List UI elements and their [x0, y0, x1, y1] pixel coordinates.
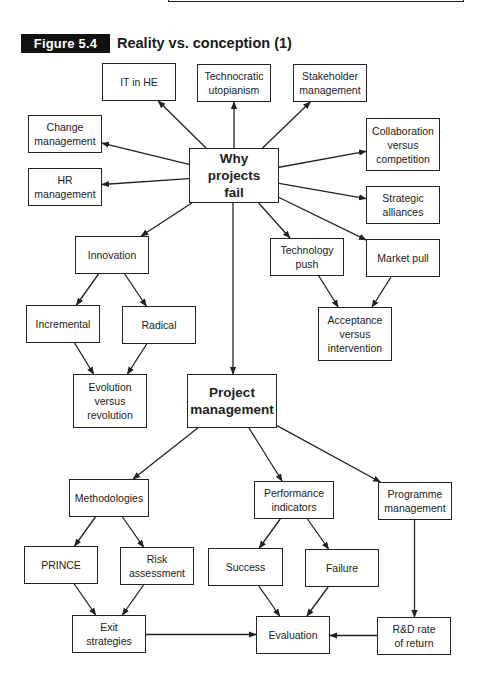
arrow-methodologies-to-risk-assessment — [122, 517, 143, 547]
arrow-prince-to-exit-strategies — [74, 584, 96, 615]
diagram-connectors — [0, 0, 477, 692]
node-rd-rate-of-return: R&D rate of return — [377, 617, 451, 655]
node-technocratic-utopianism: Technocratic utopianism — [197, 64, 271, 102]
node-it-in-he: IT in HE — [102, 63, 176, 101]
node-prince: PRINCE — [24, 546, 98, 584]
node-strategic-alliances: Strategic alliances — [366, 186, 440, 224]
arrow-failure-to-evaluation — [307, 587, 328, 616]
node-stakeholder-management: Stakeholder management — [293, 64, 367, 102]
node-methodologies: Methodologies — [69, 479, 149, 517]
arrow-performance-indicators-to-success — [259, 519, 280, 548]
node-incremental: Incremental — [26, 305, 100, 343]
node-radical: Radical — [122, 306, 196, 344]
arrow-incremental-to-evolution-versus-revolution — [75, 343, 94, 374]
node-innovation: Innovation — [75, 236, 149, 274]
arrow-market-pull-to-acceptance-versus-intervention — [372, 277, 391, 307]
node-exit-strategies: Exit strategies — [72, 615, 146, 653]
arrow-why-projects-fail-to-collaboration-versus-competition — [279, 151, 366, 167]
node-market-pull: Market pull — [366, 239, 440, 277]
arrow-success-to-evaluation — [259, 586, 280, 616]
arrow-why-projects-fail-to-market-pull — [279, 197, 366, 239]
node-acceptance-versus-intervention: Acceptance versus intervention — [318, 307, 392, 361]
node-success: Success — [208, 548, 283, 586]
node-hr-management: HR management — [28, 168, 102, 206]
arrow-risk-assessment-to-exit-strategies — [122, 585, 143, 615]
arrow-project-management-to-performance-indicators — [249, 428, 282, 481]
node-change-management: Change management — [28, 115, 102, 153]
node-why-projects-fail: Why projects fail — [189, 148, 279, 203]
arrow-why-projects-fail-to-hr-management — [102, 179, 189, 185]
node-failure: Failure — [305, 549, 379, 587]
node-performance-indicators: Performance indicators — [254, 481, 334, 519]
node-evaluation: Evaluation — [256, 616, 330, 654]
arrow-radical-to-evolution-versus-revolution — [127, 344, 146, 374]
node-collaboration-versus-competition: Collaboration versus competition — [366, 118, 440, 171]
arrow-innovation-to-radical — [125, 274, 146, 306]
arrow-methodologies-to-prince — [75, 517, 96, 546]
arrow-why-projects-fail-to-strategic-alliances — [279, 183, 366, 198]
node-evolution-versus-revolution: Evolution versus revolution — [73, 374, 147, 428]
arrow-project-management-to-programme-management — [277, 426, 380, 482]
arrow-why-projects-fail-to-it-in-he — [158, 101, 206, 148]
arrow-why-projects-fail-to-innovation — [141, 203, 192, 236]
node-project-management: Project management — [187, 374, 277, 428]
arrow-innovation-to-incremental — [76, 274, 98, 305]
arrow-technology-push-to-acceptance-versus-intervention — [319, 276, 338, 307]
node-risk-assessment: Risk assessment — [120, 547, 194, 585]
arrow-why-projects-fail-to-stakeholder-management — [263, 102, 311, 148]
node-programme-management: Programme management — [378, 482, 452, 520]
arrow-why-projects-fail-to-technology-push — [259, 203, 290, 238]
node-technology-push: Technology push — [270, 238, 344, 276]
arrow-project-management-to-methodologies — [133, 428, 198, 479]
arrow-why-projects-fail-to-change-management — [102, 143, 189, 164]
arrow-performance-indicators-to-failure — [307, 519, 328, 549]
